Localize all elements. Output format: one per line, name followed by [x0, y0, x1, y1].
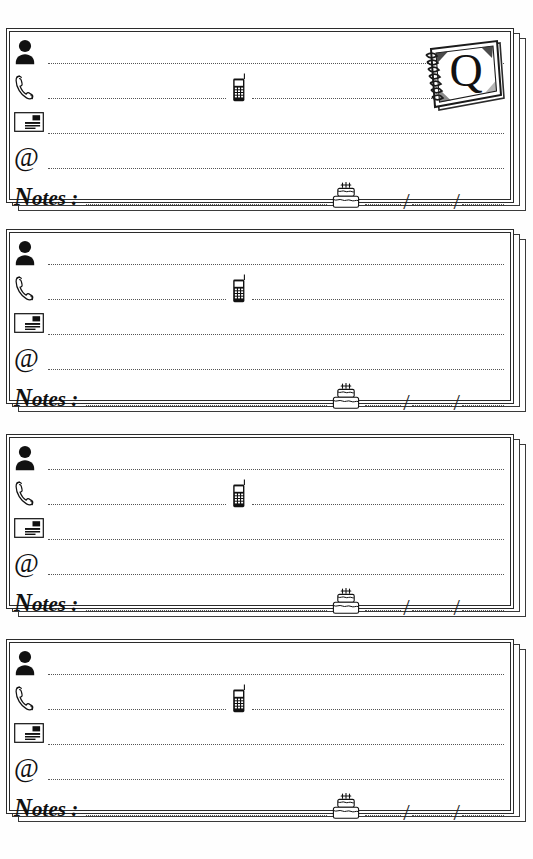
birthday-date-field[interactable]: / /	[365, 596, 504, 616]
notes-label-capital: N	[14, 589, 32, 616]
contact-card[interactable]: @ Notes :	[6, 434, 522, 609]
card-input-line[interactable]	[48, 333, 504, 335]
business-card-icon	[14, 306, 48, 340]
phone-input-line[interactable]	[48, 298, 226, 300]
field-row-notes[interactable]: Notes :	[14, 580, 504, 616]
date-separator-2: /	[454, 192, 460, 212]
date-day-line[interactable]	[365, 609, 401, 611]
at-glyph: @	[14, 144, 39, 171]
card-input-line[interactable]	[48, 132, 504, 134]
date-separator-1: /	[403, 192, 409, 212]
person-icon	[14, 236, 48, 270]
address-book-page: @ Notes :	[0, 0, 533, 859]
field-row-notes[interactable]: Notes :	[14, 375, 504, 411]
name-input-line[interactable]	[48, 673, 504, 675]
notes-label: Notes :	[14, 387, 78, 410]
date-separator-2: /	[454, 393, 460, 413]
name-input-line[interactable]	[48, 468, 504, 470]
business-card-icon	[14, 105, 48, 139]
phone-input-line[interactable]	[48, 708, 226, 710]
name-input-line[interactable]	[48, 263, 504, 265]
at-glyph: @	[14, 345, 39, 372]
date-separator-2: /	[454, 803, 460, 823]
notebook-letter: Q	[449, 45, 482, 96]
card-input-line[interactable]	[48, 538, 504, 540]
notes-label-capital: N	[14, 384, 32, 411]
field-row-email[interactable]: @	[14, 750, 504, 785]
date-separator-1: /	[403, 393, 409, 413]
at-glyph: @	[14, 755, 39, 782]
field-row-card[interactable]	[14, 510, 504, 545]
field-row-name[interactable]	[14, 645, 504, 680]
phone-input-line[interactable]	[48, 97, 226, 99]
phone-input-line[interactable]	[48, 503, 226, 505]
notes-label-capital: N	[14, 183, 32, 210]
business-card-icon	[14, 716, 48, 750]
field-row-phone[interactable]	[14, 270, 504, 305]
email-input-line[interactable]	[48, 778, 504, 780]
field-row-notes[interactable]: Notes :	[14, 174, 504, 210]
date-day-line[interactable]	[365, 814, 401, 816]
contact-card[interactable]: @ Notes :	[6, 639, 522, 814]
notes-input-line[interactable]	[86, 814, 327, 816]
contact-card[interactable]: @ Notes :	[6, 229, 522, 404]
notes-input-line[interactable]	[86, 203, 327, 205]
field-row-name[interactable]	[14, 440, 504, 475]
birthday-date-field[interactable]: / /	[365, 801, 504, 821]
email-input-line[interactable]	[48, 368, 504, 370]
card-content: @ Notes :	[6, 434, 514, 609]
notes-input-line[interactable]	[86, 609, 327, 611]
field-row-email[interactable]: @	[14, 545, 504, 580]
date-year-line[interactable]	[462, 609, 504, 611]
date-month-line[interactable]	[412, 404, 452, 406]
date-month-line[interactable]	[412, 814, 452, 816]
mobile-input-line[interactable]	[252, 298, 504, 300]
birthday-date-field[interactable]: / /	[365, 391, 504, 411]
notes-label-rest: otes :	[32, 797, 78, 821]
mobile-phone-icon	[226, 73, 252, 103]
notes-label: Notes :	[14, 592, 78, 615]
date-separator-2: /	[454, 598, 460, 618]
date-day-line[interactable]	[365, 203, 401, 205]
field-row-phone[interactable]	[14, 680, 504, 715]
at-glyph: @	[14, 550, 39, 577]
date-month-line[interactable]	[412, 203, 452, 205]
field-row-email[interactable]: @	[14, 139, 504, 174]
date-day-line[interactable]	[365, 404, 401, 406]
field-row-card[interactable]	[14, 305, 504, 340]
card-sheet-stack: @ Notes :	[6, 229, 522, 404]
card-input-line[interactable]	[48, 743, 504, 745]
birthday-cake-icon	[327, 793, 365, 821]
telephone-handset-icon	[14, 681, 48, 715]
telephone-handset-icon	[14, 476, 48, 510]
mobile-phone-icon	[226, 479, 252, 509]
field-row-card[interactable]	[14, 715, 504, 750]
at-sign-icon: @	[14, 546, 48, 580]
email-input-line[interactable]	[48, 167, 504, 169]
date-year-line[interactable]	[462, 814, 504, 816]
date-year-line[interactable]	[462, 404, 504, 406]
field-row-name[interactable]	[14, 235, 504, 270]
mobile-input-line[interactable]	[252, 503, 504, 505]
date-year-line[interactable]	[462, 203, 504, 205]
email-input-line[interactable]	[48, 573, 504, 575]
notes-label-rest: otes :	[32, 592, 78, 616]
at-sign-icon: @	[14, 751, 48, 785]
card-content: @ Notes :	[6, 639, 514, 814]
mobile-phone-icon	[226, 274, 252, 304]
notes-label-capital: N	[14, 794, 32, 821]
field-row-notes[interactable]: Notes :	[14, 785, 504, 821]
field-row-phone[interactable]	[14, 475, 504, 510]
birthday-cake-icon	[327, 588, 365, 616]
mobile-input-line[interactable]	[252, 708, 504, 710]
spiral-notebook-icon[interactable]: Q	[418, 38, 506, 118]
contact-card[interactable]: @ Notes :	[6, 28, 522, 203]
field-row-email[interactable]: @	[14, 340, 504, 375]
at-sign-icon: @	[14, 341, 48, 375]
card-sheet-stack: @ Notes :	[6, 28, 522, 203]
telephone-handset-icon	[14, 70, 48, 104]
birthday-date-field[interactable]: / /	[365, 190, 504, 210]
notes-input-line[interactable]	[86, 404, 327, 406]
person-icon	[14, 646, 48, 680]
date-month-line[interactable]	[412, 609, 452, 611]
